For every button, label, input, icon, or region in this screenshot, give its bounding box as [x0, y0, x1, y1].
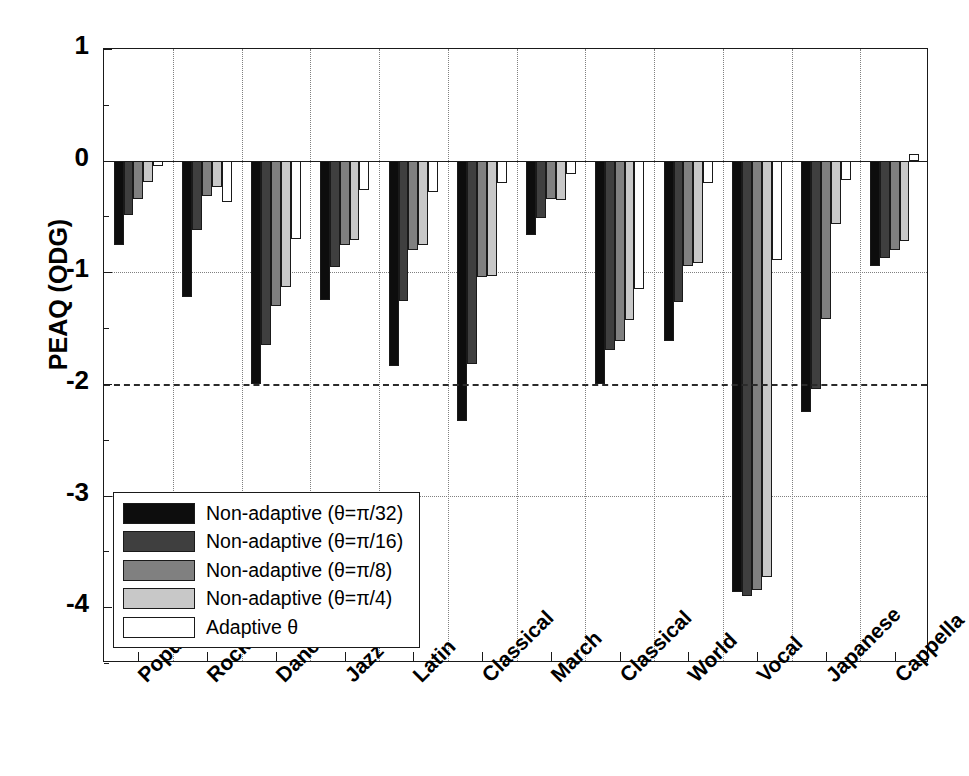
y-axis-tick-label: -1 — [0, 253, 89, 284]
bar — [870, 161, 880, 266]
bar — [212, 161, 222, 188]
y-axis-tick-label: 1 — [0, 30, 89, 61]
bar — [683, 161, 693, 266]
bar — [399, 161, 409, 302]
y-axis-tick-mark — [104, 496, 112, 497]
bar — [566, 161, 576, 174]
legend-item: Non-adaptive (θ=π/4) — [123, 585, 419, 614]
y-axis-minor-tick — [104, 328, 109, 329]
zero-line — [104, 161, 927, 162]
bar — [291, 161, 301, 239]
x-axis-tick-mark — [895, 652, 896, 661]
y-axis-minor-tick — [104, 551, 109, 552]
y-axis-tick-mark — [104, 384, 112, 385]
legend-item: Non-adaptive (θ=π/32) — [123, 499, 419, 528]
bar — [772, 161, 782, 260]
bar — [487, 161, 497, 276]
legend-swatch — [123, 617, 195, 638]
y-axis-minor-tick — [104, 440, 109, 441]
bar — [192, 161, 202, 230]
bar — [880, 161, 890, 258]
bar — [605, 161, 615, 351]
vertical-gridline — [585, 49, 586, 661]
legend-box: Non-adaptive (θ=π/32)Non-adaptive (θ=π/1… — [113, 492, 420, 648]
bar — [762, 161, 772, 577]
x-axis-tick-mark — [345, 652, 346, 661]
bar — [457, 161, 467, 421]
x-axis-tick-mark — [482, 652, 483, 661]
bar — [428, 161, 438, 192]
y-axis-minor-tick — [104, 216, 109, 217]
x-axis-tick-mark — [551, 652, 552, 661]
legend-label: Non-adaptive (θ=π/4) — [206, 589, 392, 609]
bar — [625, 161, 635, 321]
bar — [143, 161, 153, 182]
bar — [133, 161, 143, 199]
bar — [546, 161, 556, 199]
legend-swatch — [123, 560, 195, 581]
bar — [909, 154, 919, 161]
bar — [526, 161, 536, 236]
x-axis-tick-mark — [138, 652, 139, 661]
y-axis-tick-label: 0 — [0, 142, 89, 173]
bar — [350, 161, 360, 240]
bar — [664, 161, 674, 342]
bar — [831, 161, 841, 225]
x-axis-tick-mark — [207, 652, 208, 661]
legend-item: Non-adaptive (θ=π/16) — [123, 528, 419, 557]
legend-item: Non-adaptive (θ=π/8) — [123, 556, 419, 585]
bar — [340, 161, 350, 246]
bar — [811, 161, 821, 390]
reference-line — [104, 384, 927, 386]
vertical-gridline — [723, 49, 724, 661]
x-axis-tick-mark — [413, 652, 414, 661]
x-axis-tick-mark — [688, 652, 689, 661]
bar — [467, 161, 477, 364]
bar — [271, 161, 281, 306]
y-axis-tick-mark — [104, 272, 112, 273]
legend-label: Adaptive θ — [206, 618, 298, 638]
bar — [359, 161, 369, 190]
bar — [752, 161, 762, 591]
bar — [182, 161, 192, 297]
bar — [477, 161, 487, 277]
y-axis-tick-mark — [104, 49, 112, 50]
y-axis-tick-label: -4 — [0, 588, 89, 619]
legend-item: Adaptive θ — [123, 613, 419, 642]
x-axis-tick-mark — [620, 652, 621, 661]
legend-label: Non-adaptive (θ=π/32) — [206, 504, 403, 524]
legend-swatch — [123, 588, 195, 609]
bar — [124, 161, 134, 216]
x-axis-tick-mark — [276, 652, 277, 661]
vertical-gridline — [792, 49, 793, 661]
bar — [202, 161, 212, 197]
bar — [890, 161, 900, 250]
y-axis-label: PEAQ (ODG) — [44, 145, 73, 445]
bar — [251, 161, 261, 384]
bar — [693, 161, 703, 264]
bar — [900, 161, 910, 241]
vertical-gridline — [654, 49, 655, 661]
bar — [801, 161, 811, 412]
bar — [615, 161, 625, 342]
legend-label: Non-adaptive (θ=π/16) — [206, 532, 403, 552]
bar — [821, 161, 831, 320]
bar — [222, 161, 232, 202]
legend-swatch — [123, 503, 195, 524]
bar — [320, 161, 330, 301]
bar — [634, 161, 644, 289]
bar — [536, 161, 546, 218]
y-axis-tick-mark — [104, 607, 112, 608]
bar — [674, 161, 684, 303]
bar — [261, 161, 271, 345]
bar — [595, 161, 605, 384]
bar — [703, 161, 713, 183]
bar — [732, 161, 742, 592]
bar — [742, 161, 752, 596]
bar — [556, 161, 566, 200]
legend-swatch — [123, 531, 195, 552]
y-axis-tick-mark — [104, 161, 112, 162]
x-axis-tick-mark — [757, 652, 758, 661]
y-axis-tick-label: -3 — [0, 477, 89, 508]
